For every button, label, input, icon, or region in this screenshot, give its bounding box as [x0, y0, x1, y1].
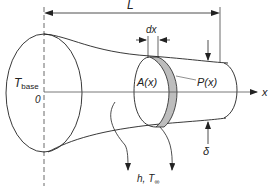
origin-label: 0 [35, 94, 41, 105]
convection-arrow-1-icon [111, 102, 128, 170]
convection-arrow-2-icon [160, 127, 172, 170]
dx-label: dx [146, 24, 158, 35]
fin-body [6, 34, 237, 152]
arrow-right-icon [211, 10, 220, 16]
perimeter-label: P(x) [197, 76, 218, 88]
thickness-label: δ [203, 145, 210, 157]
length-dimension [44, 7, 220, 186]
lower-profile [48, 118, 226, 152]
arrow-left-icon [44, 10, 53, 16]
area-label: A(x) [136, 76, 158, 88]
upper-profile [44, 34, 228, 63]
perimeter-leader [176, 76, 196, 80]
fin-diagram: L dx Tbase 0 A(x) P(x) x δ h,T∞ [0, 0, 272, 186]
x-axis-label: x [261, 86, 268, 98]
tip-end-cap [224, 63, 237, 118]
base-temp-label: Tbase [14, 76, 39, 91]
convection-label: h,T∞ [137, 173, 159, 185]
length-label: L [127, 0, 134, 12]
